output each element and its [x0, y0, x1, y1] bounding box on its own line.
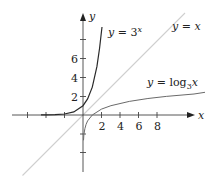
- x-tick-label-6: 6: [136, 120, 143, 133]
- y-tick-label-4: 4: [71, 72, 78, 85]
- identity-line: [23, 13, 186, 176]
- x-tick-label-2: 2: [99, 120, 106, 133]
- exponential-curve-label: y = 3x: [107, 25, 142, 39]
- y-axis-arrow-icon: [80, 13, 86, 21]
- function-graph: x y 2 4 6 8 2 4 6 y = 3x y = x y = log3x: [0, 0, 214, 179]
- x-axis-label: x: [198, 109, 205, 122]
- logarithm-curve-label: y = log3x: [146, 76, 199, 91]
- x-tick-label-8: 8: [154, 120, 161, 133]
- y-tick-label-6: 6: [71, 53, 78, 66]
- x-tick-label-4: 4: [117, 120, 124, 133]
- identity-line-label: y = x: [171, 20, 201, 33]
- y-tick-label-2: 2: [71, 91, 78, 104]
- x-axis-arrow-icon: [187, 112, 195, 118]
- y-axis-label: y: [88, 10, 96, 23]
